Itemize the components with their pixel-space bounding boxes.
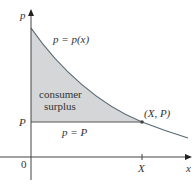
x-axis-label: x (185, 162, 191, 174)
equilibrium-point (140, 120, 144, 124)
region-label-line1: consumer (39, 88, 82, 100)
y-axis-label: p (19, 9, 26, 21)
origin-label: 0 (21, 158, 27, 170)
point-label: (X, P) (144, 107, 171, 120)
price-line-label: p = P (61, 126, 87, 138)
price-tick-label: P (18, 116, 26, 128)
quantity-tick-label: X (137, 162, 146, 174)
curve-label: p = p(x) (52, 33, 89, 46)
x-axis-arrow-icon (185, 154, 192, 160)
y-axis-arrow-icon (28, 9, 34, 16)
consumer-surplus-diagram: p x 0 p = p(x) consumer surplus p = P P … (0, 0, 196, 191)
region-label-line2: surplus (44, 100, 76, 112)
